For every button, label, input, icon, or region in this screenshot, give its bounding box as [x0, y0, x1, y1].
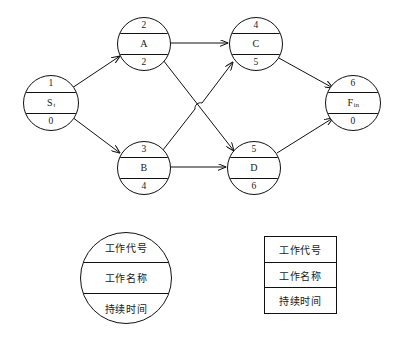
node-finish-name: Fin	[326, 92, 380, 114]
network-diagram-canvas: 1 St 0 2 A 2 4 C 5 3 B 4 5 D 6 6 Fin 0 工…	[0, 0, 395, 337]
edge-start-b	[72, 117, 120, 153]
node-b[interactable]: 3 B 4	[117, 141, 171, 195]
node-start-name-text: S	[47, 98, 53, 108]
node-d[interactable]: 5 D 6	[227, 141, 281, 195]
legend-circle-name-label: 工作名称	[81, 262, 171, 293]
node-c-name-text: C	[253, 39, 260, 49]
legend-rect-name-label: 工作名称	[265, 262, 336, 289]
node-b-name-text: B	[141, 163, 148, 173]
node-finish-name-sub: in	[354, 102, 359, 109]
node-a-name-text: A	[140, 39, 147, 49]
edge-c-finish	[277, 57, 333, 88]
edge-a-d	[163, 60, 234, 151]
node-d-name: D	[228, 157, 280, 178]
edge-d-finish	[277, 118, 333, 153]
legend-circle: 工作代号 工作名称 持续时间	[80, 232, 172, 324]
node-d-name-text: D	[250, 163, 257, 173]
legend-rect-code-label: 工作代号	[265, 237, 336, 262]
node-b-name: B	[118, 157, 170, 178]
node-c-name: C	[230, 33, 282, 54]
legend-rect: 工作代号 工作名称 持续时间	[264, 236, 337, 314]
edge-start-a	[72, 56, 120, 88]
node-finish-name-text: F	[347, 98, 353, 108]
node-start-name: St	[24, 92, 78, 114]
node-start[interactable]: 1 St 0	[23, 75, 79, 131]
node-a[interactable]: 2 A 2	[117, 17, 171, 71]
node-finish[interactable]: 6 Fin 0	[325, 75, 381, 131]
node-c[interactable]: 4 C 5	[229, 17, 283, 71]
legend-rect-duration-label: 持续时间	[265, 288, 336, 313]
node-start-name-sub: t	[53, 102, 55, 109]
node-a-name: A	[118, 33, 170, 54]
